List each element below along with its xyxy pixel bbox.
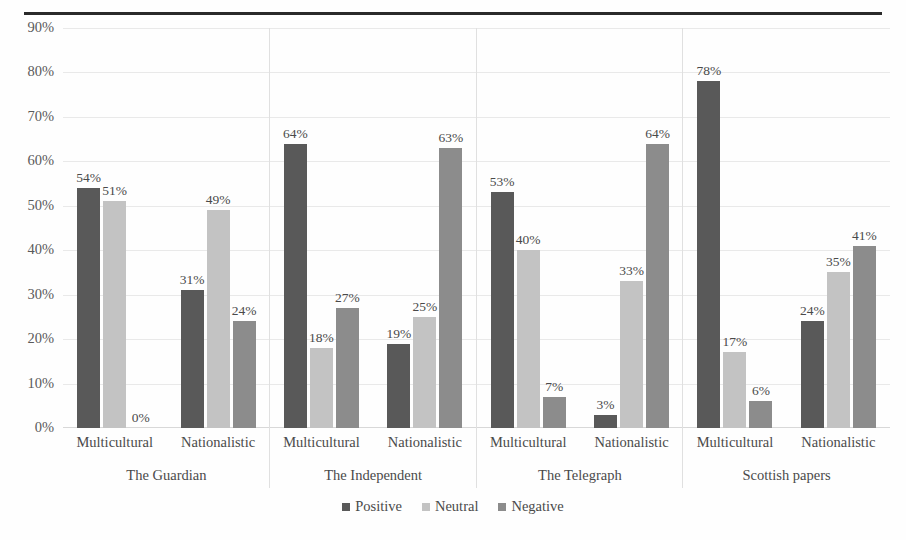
frame-group: 24%35%41%	[787, 28, 890, 428]
bar-positive[interactable]	[801, 321, 824, 428]
chart-legend: PositiveNeutralNegative	[0, 498, 906, 515]
bar-value-label: 35%	[826, 254, 851, 270]
bar-positive[interactable]	[181, 290, 204, 428]
frame-group: 78%17%6%	[683, 28, 786, 428]
bar-wrapper: 49%	[207, 28, 230, 428]
x-axis-paper-label: The Guardian	[63, 451, 270, 484]
bar-value-label: 19%	[386, 326, 411, 342]
bar-groups: 54%51%0%31%49%24%64%18%27%19%25%63%53%40…	[63, 28, 890, 428]
bar-value-label: 7%	[545, 379, 563, 395]
x-axis-frame-label: Multicultural	[683, 430, 786, 451]
bar-positive[interactable]	[491, 192, 514, 428]
bar-positive[interactable]	[284, 144, 307, 428]
bar-negative[interactable]	[336, 308, 359, 428]
bar-value-label: 54%	[76, 170, 101, 186]
bar-wrapper: 6%	[749, 28, 772, 428]
bar-value-label: 18%	[309, 330, 334, 346]
legend-item[interactable]: Negative	[498, 498, 563, 515]
x-axis-paper-label: The Telegraph	[477, 451, 684, 484]
bar-wrapper: 54%	[77, 28, 100, 428]
bar-value-label: 24%	[800, 303, 825, 319]
plot-area: 54%51%0%31%49%24%64%18%27%19%25%63%53%40…	[63, 28, 890, 428]
bar-positive[interactable]	[697, 81, 720, 428]
bar-wrapper: 24%	[233, 28, 256, 428]
bar-wrapper: 25%	[413, 28, 436, 428]
paper-group: 78%17%6%24%35%41%	[683, 28, 890, 428]
bar-neutral[interactable]	[517, 250, 540, 428]
bar-value-label: 31%	[180, 272, 205, 288]
bar-wrapper: 0%	[129, 28, 152, 428]
legend-swatch-neutral	[422, 503, 430, 511]
bar-value-label: 17%	[723, 334, 748, 350]
legend-swatch-positive	[342, 503, 350, 511]
bar-value-label: 51%	[102, 183, 127, 199]
bar-neutral[interactable]	[723, 352, 746, 428]
bar-value-label: 49%	[206, 192, 231, 208]
frame-group: 64%18%27%	[270, 28, 373, 428]
frame-group: 54%51%0%	[63, 28, 166, 428]
bar-neutral[interactable]	[207, 210, 230, 428]
bar-wrapper: 41%	[853, 28, 876, 428]
bar-wrapper: 24%	[801, 28, 824, 428]
y-axis-tick-label: 0%	[8, 419, 54, 436]
bar-wrapper: 51%	[103, 28, 126, 428]
x-axis-group: MulticulturalNationalisticThe Independen…	[270, 430, 477, 488]
legend-label: Neutral	[435, 498, 478, 515]
x-axis-paper-label: Scottish papers	[683, 451, 890, 484]
bar-wrapper: 33%	[620, 28, 643, 428]
x-axis-frame-label: Nationalistic	[166, 430, 269, 451]
bar-wrapper: 64%	[284, 28, 307, 428]
bar-positive[interactable]	[77, 188, 100, 428]
bar-negative[interactable]	[853, 246, 876, 428]
legend-swatch-negative	[498, 503, 506, 511]
y-axis-tick-label: 90%	[8, 19, 54, 36]
y-axis-tick-label: 10%	[8, 375, 54, 392]
y-axis-tick-label: 50%	[8, 197, 54, 214]
bar-negative[interactable]	[749, 401, 772, 428]
y-axis-tick-label: 40%	[8, 241, 54, 258]
bar-value-label: 33%	[619, 263, 644, 279]
bar-neutral[interactable]	[827, 272, 850, 428]
x-axis-frame-label: Multicultural	[477, 430, 580, 451]
frame-group: 3%33%64%	[580, 28, 683, 428]
bar-positive[interactable]	[387, 344, 410, 428]
bar-neutral[interactable]	[103, 201, 126, 428]
bar-value-label: 6%	[752, 383, 770, 399]
bar-value-label: 53%	[490, 174, 515, 190]
bar-wrapper: 19%	[387, 28, 410, 428]
bar-value-label: 78%	[697, 63, 722, 79]
bar-wrapper: 27%	[336, 28, 359, 428]
y-axis-tick-label: 30%	[8, 286, 54, 303]
bar-neutral[interactable]	[310, 348, 333, 428]
bar-wrapper: 53%	[491, 28, 514, 428]
bar-negative[interactable]	[233, 321, 256, 428]
y-axis-tick-label: 20%	[8, 330, 54, 347]
x-axis-frame-label: Nationalistic	[373, 430, 476, 451]
bar-wrapper: 63%	[439, 28, 462, 428]
bar-wrapper: 64%	[646, 28, 669, 428]
bar-wrapper: 3%	[594, 28, 617, 428]
bar-wrapper: 78%	[697, 28, 720, 428]
x-axis-paper-label: The Independent	[270, 451, 477, 484]
bar-negative[interactable]	[646, 144, 669, 428]
legend-item[interactable]: Positive	[342, 498, 402, 515]
paper-group: 54%51%0%31%49%24%	[63, 28, 270, 428]
frame-group: 53%40%7%	[477, 28, 580, 428]
bar-value-label: 41%	[852, 228, 877, 244]
legend-label: Positive	[355, 498, 402, 515]
bar-neutral[interactable]	[620, 281, 643, 428]
bar-positive[interactable]	[594, 415, 617, 428]
paper-group: 53%40%7%3%33%64%	[477, 28, 684, 428]
legend-item[interactable]: Neutral	[422, 498, 478, 515]
paper-group: 64%18%27%19%25%63%	[270, 28, 477, 428]
bar-negative[interactable]	[543, 397, 566, 428]
bar-neutral[interactable]	[413, 317, 436, 428]
bar-value-label: 24%	[232, 303, 257, 319]
bar-negative[interactable]	[439, 148, 462, 428]
bar-value-label: 25%	[412, 299, 437, 315]
grouped-bar-chart: 0%10%20%30%40%50%60%70%80%90% 54%51%0%31…	[0, 0, 906, 540]
y-axis-tick-label: 70%	[8, 108, 54, 125]
x-axis-labels: MulticulturalNationalisticThe GuardianMu…	[63, 430, 890, 488]
bar-wrapper: 31%	[181, 28, 204, 428]
bar-wrapper: 35%	[827, 28, 850, 428]
